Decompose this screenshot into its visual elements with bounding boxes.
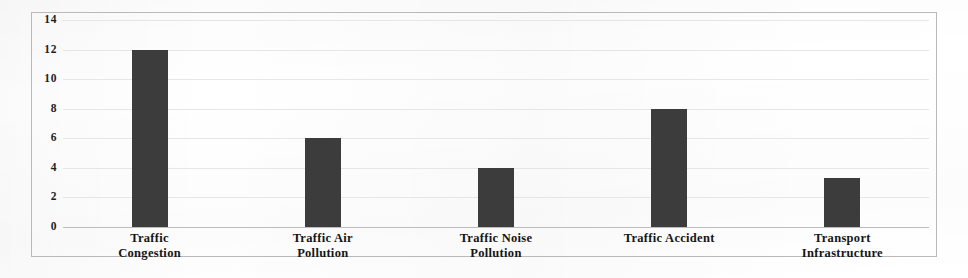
bar[interactable] [478, 168, 514, 227]
y-axis-tick-label: 8 [31, 103, 57, 115]
plot-area [63, 20, 929, 227]
gridline [63, 138, 929, 139]
y-axis-tick-label: 2 [31, 192, 57, 204]
x-axis-tick-label-line2: Congestion [65, 246, 235, 261]
x-axis-tick-label-line1: Traffic [130, 231, 169, 245]
x-axis-tick-label-line1: Traffic Air [293, 231, 353, 245]
y-axis-tick-label: 14 [31, 14, 57, 26]
x-axis-tick-label-line1: Traffic Accident [624, 231, 715, 245]
x-axis-tick-label: TransportInfrastructure [757, 231, 927, 261]
y-axis-tick-label: 6 [31, 133, 57, 145]
bar[interactable] [824, 178, 860, 227]
bar[interactable] [651, 109, 687, 227]
x-axis: TrafficCongestionTraffic AirPollutionTra… [63, 231, 929, 275]
bar[interactable] [132, 50, 168, 227]
gridline [63, 20, 929, 21]
x-axis-tick-label-line2: Pollution [238, 246, 408, 261]
x-axis-tick-label: Traffic AirPollution [238, 231, 408, 261]
gridline [63, 79, 929, 80]
gridline [63, 227, 929, 228]
x-axis-tick-label-line2: Infrastructure [757, 246, 927, 261]
x-axis-tick-label: Traffic Accident [584, 231, 754, 246]
x-axis-tick-label: Traffic NoisePollution [411, 231, 581, 261]
y-axis: 02468101214 [27, 20, 57, 227]
x-axis-tick-label-line1: Transport [814, 231, 871, 245]
x-axis-tick-label: TrafficCongestion [65, 231, 235, 261]
y-axis-tick-label: 4 [31, 162, 57, 174]
gridline [63, 50, 929, 51]
y-axis-tick-label: 12 [31, 44, 57, 56]
y-axis-tick-label: 10 [31, 73, 57, 85]
gridline [63, 109, 929, 110]
x-axis-tick-label-line2: Pollution [411, 246, 581, 261]
bar[interactable] [305, 138, 341, 227]
y-axis-tick-label: 0 [31, 221, 57, 233]
x-axis-tick-label-line1: Traffic Noise [460, 231, 533, 245]
